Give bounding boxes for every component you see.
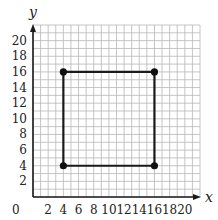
origin-label: 0 (12, 203, 20, 217)
vertex-point (60, 162, 67, 169)
x-tick-label: 8 (90, 203, 98, 217)
y-tick-label: 8 (19, 127, 27, 141)
x-tick-label: 6 (75, 203, 83, 217)
vertex-point (60, 68, 67, 75)
y-tick-label: 16 (12, 65, 27, 79)
y-tick-label: 18 (12, 49, 27, 63)
coordinate-plane-chart: 24681012141618202468101214161820 x y 0 (0, 0, 218, 220)
x-axis-label: x (205, 189, 213, 205)
y-tick-label: 10 (12, 112, 27, 126)
y-tick-label: 14 (12, 81, 28, 95)
vertex-point (151, 68, 158, 75)
x-tick-label: 10 (101, 203, 116, 217)
x-tick-label: 12 (116, 203, 131, 217)
y-axis-label: y (28, 4, 38, 20)
y-tick-label: 2 (19, 174, 27, 188)
y-tick-label: 20 (12, 34, 27, 48)
y-tick-label: 12 (12, 96, 27, 110)
x-tick-label: 4 (60, 203, 68, 217)
grid-lines (33, 25, 200, 197)
x-tick-label: 16 (147, 203, 162, 217)
x-tick-label: 2 (44, 203, 52, 217)
x-tick-label: 18 (162, 203, 177, 217)
x-tick-label: 20 (177, 203, 192, 217)
y-tick-label: 6 (19, 143, 27, 157)
y-tick-label: 4 (19, 159, 27, 173)
x-tick-label: 14 (132, 203, 148, 217)
vertex-point (151, 162, 158, 169)
